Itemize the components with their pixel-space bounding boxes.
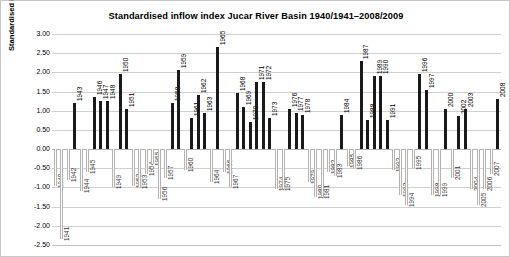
y-tick-label: 1.50 xyxy=(6,88,50,95)
bar-value-label: 1956 xyxy=(162,187,168,201)
bar-value-label: 1942 xyxy=(71,168,77,182)
bar xyxy=(262,82,265,149)
bar-value-label: 1990 xyxy=(383,60,389,74)
bar-value-label: 1999 xyxy=(442,183,448,197)
y-tick-label: 2.00 xyxy=(6,68,50,75)
bar-value-label: 1972 xyxy=(266,66,272,80)
bar xyxy=(197,95,200,149)
y-tick-label: -2.00 xyxy=(6,222,50,229)
bar xyxy=(106,101,109,149)
bar xyxy=(99,101,102,149)
bar xyxy=(379,76,382,149)
bar-value-label: 1949 xyxy=(116,175,122,189)
bar xyxy=(73,103,76,149)
bar xyxy=(373,76,376,149)
bar xyxy=(386,120,389,149)
y-tick-label: -0.50 xyxy=(6,164,50,171)
bar-value-label: 1973 xyxy=(272,102,278,116)
bar-value-label: 1944 xyxy=(84,179,90,193)
gridline xyxy=(52,53,501,54)
bar-value-label: 1960 xyxy=(188,158,194,172)
bar-value-label: 1997 xyxy=(429,73,435,87)
y-tick-label: 1.00 xyxy=(6,107,50,114)
bar xyxy=(366,120,369,149)
bar-value-label: 1945 xyxy=(90,160,96,174)
bar-value-label: 1981 xyxy=(324,185,330,199)
x-axis-line xyxy=(52,245,501,246)
bar-value-label: 2000 xyxy=(448,93,454,107)
bar xyxy=(301,115,304,150)
bar xyxy=(216,47,219,149)
bar-value-label: 1941 xyxy=(64,227,70,241)
bar xyxy=(496,99,499,149)
y-tick-label: 0.00 xyxy=(6,145,50,152)
bar-value-label: 1963 xyxy=(207,96,213,110)
bar-value-label: 1964 xyxy=(214,169,220,183)
bar xyxy=(119,74,122,149)
y-tick-label: 3.00 xyxy=(6,30,50,37)
gridline xyxy=(52,34,501,35)
bar-value-label: 1984 xyxy=(344,98,350,112)
bar-value-label: 1951 xyxy=(129,93,135,107)
bar-value-label: 1978 xyxy=(305,98,311,112)
bar-value-label: 2003 xyxy=(468,93,474,107)
bar xyxy=(268,118,271,149)
bar-value-label: 1983 xyxy=(337,164,343,178)
bar xyxy=(457,116,460,149)
bar xyxy=(425,90,428,149)
bar-value-label: 1962 xyxy=(201,79,207,93)
bar xyxy=(295,113,298,149)
bar-value-label: 2005 xyxy=(481,192,487,206)
bar xyxy=(288,109,291,149)
gridline xyxy=(52,226,501,227)
bar-value-label: 1975 xyxy=(285,177,291,191)
bar-value-label: 1957 xyxy=(168,166,174,180)
y-tick-label: -1.00 xyxy=(6,183,50,190)
bar-value-label: 1996 xyxy=(422,58,428,72)
bar xyxy=(177,70,180,149)
bar-value-label: 1987 xyxy=(363,45,369,59)
bar-value-label: 1948 xyxy=(110,85,116,99)
bar xyxy=(255,82,258,149)
bar xyxy=(249,122,252,149)
bar-value-label: 2006 xyxy=(487,177,493,191)
bar-value-label: 1968 xyxy=(240,77,246,91)
bar xyxy=(203,113,206,149)
plot-area: 1940194119421943194419451946194719481949… xyxy=(52,34,501,245)
gridline xyxy=(52,207,501,208)
y-tick-label: -1.50 xyxy=(6,203,50,210)
y-axis-ticks: 3.002.502.001.501.000.500.00-0.50-1.00-1… xyxy=(1,34,50,245)
bar-value-label: 1943 xyxy=(77,87,83,101)
bar xyxy=(340,115,343,150)
bar xyxy=(190,118,193,149)
bar xyxy=(236,93,239,149)
bar-value-label: 1950 xyxy=(123,58,129,72)
chart-figure: Standardised inflow index Jucar River Ba… xyxy=(0,0,510,257)
bar xyxy=(93,97,96,149)
bar xyxy=(418,74,421,149)
y-tick-label: -2.50 xyxy=(6,241,50,248)
bar-value-label: 1969 xyxy=(246,91,252,105)
bar-value-label: 1965 xyxy=(220,31,226,45)
chart-title: Standardised inflow index Jucar River Ba… xyxy=(1,11,510,21)
bar-value-label: 2008 xyxy=(500,83,506,97)
bar-value-label: 2001 xyxy=(455,166,461,180)
bar-value-label: 1986 xyxy=(357,156,363,170)
bar xyxy=(125,109,128,149)
bar-value-label: 1953 xyxy=(142,175,148,189)
bar-value-label: 1959 xyxy=(181,54,187,68)
bar xyxy=(464,109,467,149)
bar xyxy=(444,109,447,149)
y-tick-label: 2.50 xyxy=(6,49,50,56)
bar xyxy=(171,103,174,149)
y-tick-label: 0.50 xyxy=(6,126,50,133)
bar xyxy=(360,61,363,149)
bar-value-label: 2007 xyxy=(494,162,500,176)
bar xyxy=(60,149,63,239)
bar-value-label: 1995 xyxy=(416,156,422,170)
bar-value-label: 1994 xyxy=(409,192,415,206)
bar-value-label: 1967 xyxy=(233,175,239,189)
bar-value-label: 1991 xyxy=(390,104,396,118)
bar xyxy=(242,107,245,149)
